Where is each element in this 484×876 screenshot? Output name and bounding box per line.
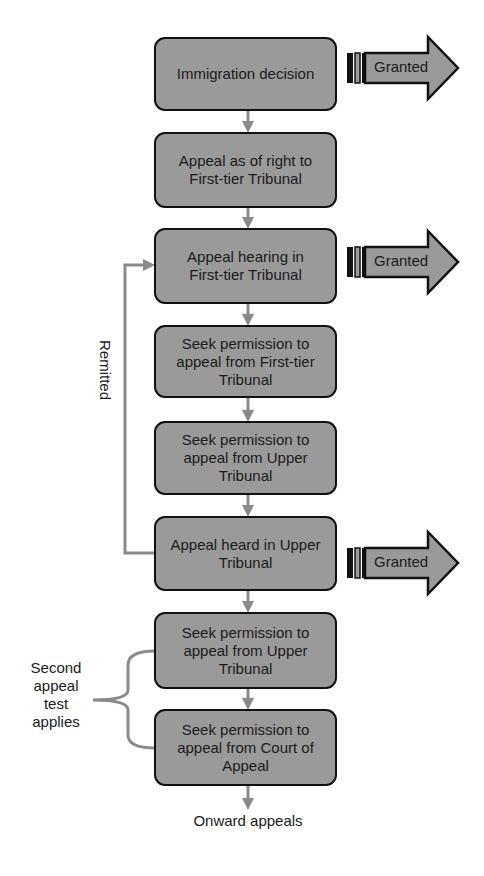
- onward-appeals-label: Onward appeals: [178, 812, 318, 830]
- node-permission-from-ftt: Seek permission to appeal from First-tie…: [154, 325, 337, 398]
- node-permission-from-ut-1: Seek permission to appeal from Upper Tri…: [154, 421, 337, 495]
- granted-label-2: Granted: [374, 252, 428, 270]
- node-permission-from-ut-2: Seek permission to appeal from Upper Tri…: [154, 612, 337, 689]
- node-label: Immigration decision: [177, 65, 315, 83]
- node-permission-from-coa: Seek permission to appeal from Court of …: [154, 709, 337, 786]
- node-label: Appeal heard in Upper Tribunal: [163, 536, 328, 572]
- second-appeal-label: Second appeal test applies: [20, 659, 92, 731]
- node-label: Seek permission to appeal from Upper Tri…: [173, 624, 318, 678]
- node-appeal-heard-ut: Appeal heard in Upper Tribunal: [154, 516, 337, 591]
- node-label: Appeal hearing in First-tier Tribunal: [176, 248, 316, 284]
- remitted-loop-arrow: [125, 265, 154, 553]
- node-label: Seek permission to appeal from Upper Tri…: [173, 431, 318, 485]
- node-appeal-hearing-ftt: Appeal hearing in First-tier Tribunal: [154, 228, 337, 304]
- granted-label-3: Granted: [374, 553, 428, 571]
- node-label: Seek permission to appeal from Court of …: [163, 721, 328, 775]
- node-label: Seek permission to appeal from First-tie…: [166, 335, 326, 389]
- remitted-label: Remitted: [95, 335, 115, 405]
- node-label: Appeal as of right to First-tier Tribuna…: [171, 152, 321, 188]
- node-appeal-as-of-right: Appeal as of right to First-tier Tribuna…: [154, 132, 337, 208]
- second-appeal-brace: [93, 651, 155, 748]
- node-immigration-decision: Immigration decision: [154, 37, 337, 111]
- granted-label-1: Granted: [374, 58, 428, 76]
- granted-arrow-shapes: [347, 37, 458, 594]
